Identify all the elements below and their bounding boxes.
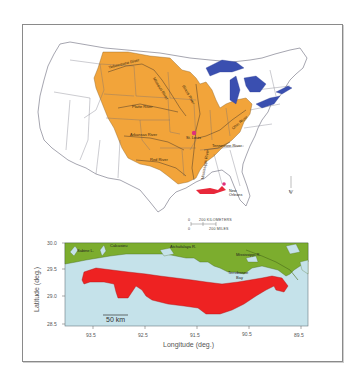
- y-axis-title: Latitude (deg.): [33, 267, 40, 312]
- y-tick-28-5: 28.5: [47, 321, 57, 327]
- label-terrebonne-line2: Bay: [236, 275, 243, 280]
- x-tick-89-5: 89.5: [294, 332, 304, 338]
- us-basin-map: [0, 0, 360, 240]
- x-tick-92-5: 92.5: [138, 332, 148, 338]
- y-tick-29-5: 29.5: [47, 266, 57, 272]
- x-tick-93-5: 93.5: [86, 332, 96, 338]
- label-arkansas-river: Arkansas River: [130, 132, 157, 137]
- new-orleans-marker: [222, 182, 226, 186]
- st-louis-marker: [192, 131, 196, 135]
- label-mississippi-river-lower: Mississippi R.: [236, 252, 260, 257]
- x-tick-91-5: 91.5: [190, 332, 200, 338]
- x-tick-90-5: 90.5: [242, 331, 252, 337]
- scale-mi-label: 200 MILES: [209, 227, 229, 231]
- scale-km-label: 200 KILOMETERS: [199, 218, 232, 222]
- label-calcasieu: Calcasieu: [110, 243, 128, 248]
- scale-bar: [191, 222, 216, 226]
- label-tennessee-river: Tennessee River: [212, 143, 242, 148]
- label-platte-river: Platte River: [132, 104, 153, 109]
- y-tick-29-0: 29.0: [47, 293, 57, 299]
- label-sabine-lake: Sabine L.: [77, 248, 94, 253]
- label-new-orleans-line2: Orleans: [229, 193, 242, 197]
- scale-zero-km: 0: [188, 218, 190, 222]
- north-arrow-label: N: [289, 190, 292, 194]
- hypoxia-zone-overview: [196, 186, 226, 194]
- scale-50km-label: 50 km: [106, 316, 125, 323]
- label-red-river: Red River: [150, 157, 168, 162]
- label-st-louis: St. Louis: [186, 136, 201, 140]
- scale-zero-mi: 0: [188, 227, 190, 231]
- y-tick-30-0: 30.0: [47, 240, 57, 246]
- label-atchafalaya-river: Atchafalaya R.: [170, 244, 196, 249]
- x-axis-title: Longitude (deg.): [163, 341, 214, 348]
